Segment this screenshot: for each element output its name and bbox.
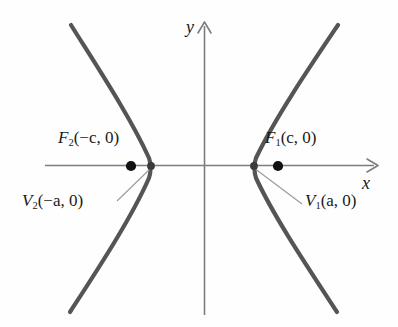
x-axis-label: x	[362, 174, 370, 192]
vertex-right-label: V1(a, 0)	[305, 192, 357, 211]
focus-left-label-coords: (−c, 0)	[74, 128, 119, 147]
vertex-left-label: V2(−a, 0)	[22, 192, 83, 211]
focus-right-label: F1(c, 0)	[265, 129, 317, 148]
focus-right-label-name: F	[265, 128, 275, 147]
hyperbola-right-branch	[255, 25, 339, 312]
focus-left-label: F2(−c, 0)	[58, 129, 119, 148]
vertex-right-label-name: V	[305, 191, 315, 210]
vertex-right-point	[250, 162, 258, 170]
vertex-left-label-coords: (−a, 0)	[38, 191, 83, 210]
focus-left-point	[126, 161, 136, 171]
hyperbola-figure: F2(−c, 0) F1(c, 0) V2(−a, 0) V1(a, 0) y …	[0, 0, 398, 327]
focus-left-label-name: F	[58, 128, 68, 147]
vertex-right-label-coords: (a, 0)	[321, 191, 357, 210]
focus-right-label-coords: (c, 0)	[281, 128, 317, 147]
vertex-left-label-name: V	[22, 191, 32, 210]
y-axis-label: y	[186, 18, 194, 36]
focus-right-point	[273, 161, 283, 171]
figure-canvas	[0, 0, 398, 327]
vertex-left-point	[147, 162, 155, 170]
hyperbola-left-branch	[70, 25, 151, 312]
